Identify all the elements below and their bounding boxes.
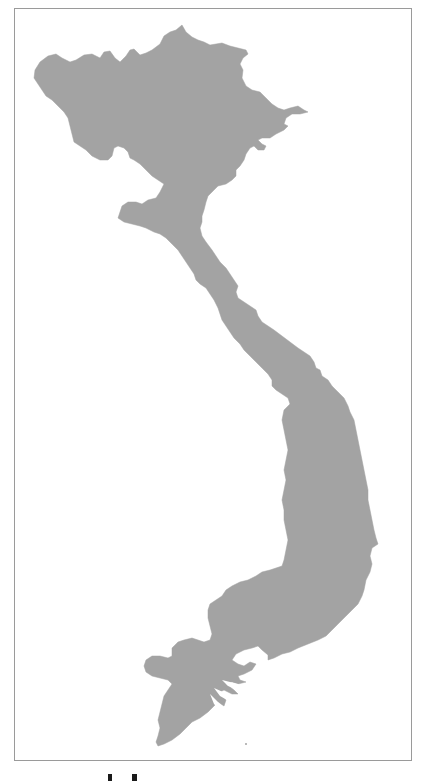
caption-glyph-fragment [132, 774, 137, 781]
island-dot [245, 743, 247, 745]
caption-fragments [0, 770, 427, 781]
caption-glyph-fragment [108, 774, 112, 781]
vietnam-map [0, 0, 427, 781]
vietnam-landmass [34, 25, 378, 746]
